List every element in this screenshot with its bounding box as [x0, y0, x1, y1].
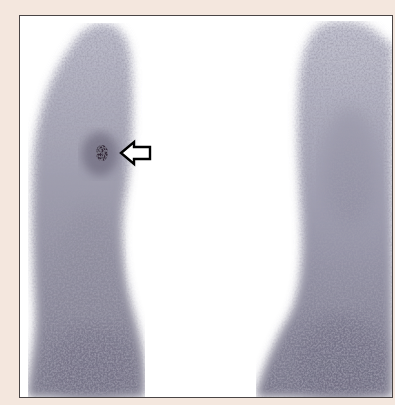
left-limb-uptake — [28, 24, 145, 397]
right-limb-uptake — [256, 21, 392, 397]
focal-hotspot — [82, 132, 118, 176]
scan-image — [20, 16, 392, 397]
image-description: Grayscale nuclear medicine scan showing … — [20, 397, 21, 398]
scan-frame: Grayscale nuclear medicine scan showing … — [19, 15, 393, 398]
